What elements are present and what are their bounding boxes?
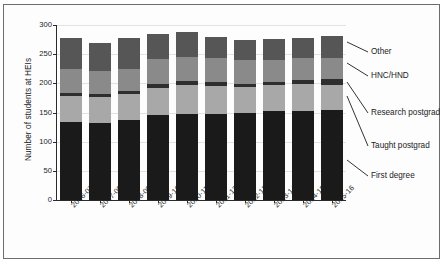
bar-segment: [118, 94, 140, 120]
bar-segment: [321, 58, 343, 79]
bar-segment: [263, 82, 285, 85]
bar-segment: [60, 69, 82, 92]
chart-figure: Number of students at HEIs 0501001502002…: [0, 0, 444, 264]
legend-label-hnc-hnd: HNC/HND: [371, 72, 409, 80]
bar-segment: [263, 85, 285, 111]
legend-leader-line: [347, 63, 368, 76]
bar-segment: [292, 58, 314, 80]
bar-segment: [176, 85, 198, 114]
bar-segment: [118, 91, 140, 95]
bar-segment: [60, 93, 82, 97]
plot-area: Number of students at HEIs 0501001502002…: [0, 0, 444, 264]
y-tick-label: 200: [28, 79, 52, 87]
bar-2012-13: [234, 25, 256, 200]
bar-segment: [176, 32, 198, 57]
legend-leader-line: [347, 160, 368, 176]
bar-segment: [118, 38, 140, 69]
legend-leader-line: [347, 42, 368, 52]
bar-segment: [205, 58, 227, 82]
bar-segment: [263, 60, 285, 82]
y-tick-label: 300: [28, 21, 52, 29]
y-tick-label: 100: [28, 138, 52, 146]
bar-segment: [234, 60, 256, 84]
bar-2006-07: [60, 25, 82, 200]
bar-2011-12: [205, 25, 227, 200]
bar-segment: [205, 37, 227, 58]
bar-2007-08: [89, 25, 111, 200]
bar-segment: [60, 122, 82, 200]
legend-leader-line: [347, 82, 368, 113]
bar-segment: [292, 38, 314, 57]
bar-2015-16: [321, 25, 343, 200]
legend-leader-line: [347, 96, 368, 146]
y-tick-label: 0: [28, 196, 52, 204]
legend-label-taught-postgrad: Taught postgrad: [371, 142, 430, 150]
bar-segment: [321, 79, 343, 84]
bar-segment: [205, 86, 227, 113]
bar-2009-10: [147, 25, 169, 200]
y-tick-label: 250: [28, 50, 52, 58]
bar-2008-09: [118, 25, 140, 200]
bar-segment: [118, 69, 140, 91]
bar-segment: [205, 82, 227, 86]
bar-segment: [147, 88, 169, 115]
bar-segment: [147, 34, 169, 59]
legend-label-other: Other: [371, 48, 391, 56]
legend-label-research-postgrad: Research postgrad: [371, 109, 440, 117]
y-tick-label: 150: [28, 109, 52, 117]
bar-segment: [176, 81, 198, 85]
bar-segment: [89, 97, 111, 123]
bar-2010-11: [176, 25, 198, 200]
bar-segment: [89, 43, 111, 71]
bar-segment: [263, 39, 285, 60]
bar-segment: [234, 87, 256, 113]
bar-segment: [321, 85, 343, 110]
bar-group: [57, 25, 346, 200]
legend-label-first-degree: First degree: [371, 172, 415, 180]
bar-segment: [147, 84, 169, 88]
bar-segment: [292, 84, 314, 111]
bar-segment: [234, 84, 256, 88]
bar-segment: [89, 71, 111, 94]
bar-segment: [234, 40, 256, 60]
bar-2014-15: [292, 25, 314, 200]
bar-segment: [321, 36, 343, 58]
bar-segment: [60, 38, 82, 70]
bar-segment: [60, 96, 82, 122]
bar-2013-14: [263, 25, 285, 200]
y-tick-label: 50: [28, 167, 52, 175]
bar-segment: [147, 59, 169, 84]
bar-segment: [292, 80, 314, 84]
bar-segment: [89, 94, 111, 98]
bar-segment: [176, 57, 198, 81]
